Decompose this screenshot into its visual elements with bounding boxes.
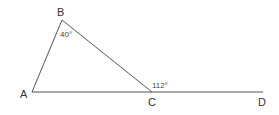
label-a: A <box>20 88 28 100</box>
segment-bc <box>62 20 152 92</box>
label-c: C <box>148 96 156 108</box>
segment-ab <box>32 20 62 92</box>
triangle-diagram: B A C D 40° 112° <box>0 0 279 115</box>
angle-b-label: 40° <box>60 30 72 39</box>
label-b: B <box>57 6 64 18</box>
angle-bcd-label: 112° <box>152 81 168 90</box>
label-d: D <box>258 96 266 108</box>
